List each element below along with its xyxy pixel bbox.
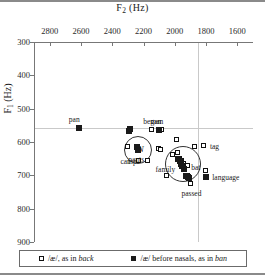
data-point-back [192, 144, 197, 149]
data-point-nasal [156, 127, 162, 133]
y-tick-label: 300 [4, 37, 30, 47]
y-tick-label: 600 [4, 137, 30, 147]
legend-label-nasal: /æ/ before nasals, as in ban [140, 254, 227, 263]
gridline-vertical [198, 43, 199, 242]
plot-area: Ncampbeganbatpassedtagpanpantsmanfamilyl… [34, 42, 253, 242]
data-point-nasal [186, 175, 192, 181]
data-point-label: pants [128, 155, 144, 164]
data-point-label: language [212, 173, 239, 182]
x-tick-label: 2800 [33, 26, 67, 36]
legend-item-nasal: /æ/ before nasals, as in ban [131, 254, 227, 263]
data-point-back [149, 127, 154, 132]
y-tick-label: 500 [4, 104, 30, 114]
y-tick-label: 400 [4, 70, 30, 80]
data-point-back [164, 173, 169, 178]
open-square-icon [39, 256, 44, 261]
y-tick [30, 242, 34, 243]
data-point-back [175, 150, 180, 155]
x-axis-title: F2 (Hz) [0, 2, 265, 15]
data-point-back [203, 168, 208, 173]
gridline-horizontal [35, 128, 253, 129]
x-tick-label: 1600 [220, 26, 254, 36]
data-point-label: bat [191, 163, 200, 172]
y-tick-label: 900 [4, 237, 30, 247]
data-point-nasal [135, 147, 141, 153]
y-tick-label: 700 [4, 170, 30, 180]
data-point-label: tag [210, 142, 219, 151]
x-axis-title-unit: (Hz) [126, 2, 148, 13]
filled-square-icon [131, 256, 136, 261]
data-point-label: pan [69, 115, 80, 124]
x-tick-label: 1800 [189, 26, 223, 36]
x-tick-label: 2600 [64, 26, 98, 36]
chart-legend: /æ/, as in back /æ/ before nasals, as in… [19, 250, 247, 267]
legend-label-back: /æ/, as in back [48, 254, 94, 263]
legend-item-back: /æ/, as in back [39, 254, 94, 263]
data-point-nasal [181, 166, 187, 172]
data-point-back [170, 152, 175, 157]
x-tick-label: 2200 [127, 26, 161, 36]
x-tick-label: 2400 [95, 26, 129, 36]
data-point-label: family [156, 165, 176, 174]
plot-inner: Ncampbeganbatpassedtagpanpantsmanfamilyl… [35, 43, 253, 242]
y-tick-label: 800 [4, 204, 30, 214]
data-point-back [201, 143, 206, 148]
data-point-nasal [203, 174, 209, 180]
chart-figure: F2 (Hz) F1 (Hz) 280026002400220020001800… [0, 0, 265, 275]
data-point-label: passed [181, 189, 201, 198]
data-point-nasal [76, 125, 82, 131]
data-point-back [145, 158, 150, 163]
data-point-back [125, 144, 130, 149]
data-point-back [174, 137, 179, 142]
data-point-back [158, 147, 163, 152]
data-point-back [188, 181, 193, 186]
y-axis-title-unit: (Hz) [2, 83, 13, 104]
data-point-label: man [150, 117, 163, 126]
x-tick-label: 2000 [158, 26, 192, 36]
data-point-nasal [127, 126, 133, 132]
